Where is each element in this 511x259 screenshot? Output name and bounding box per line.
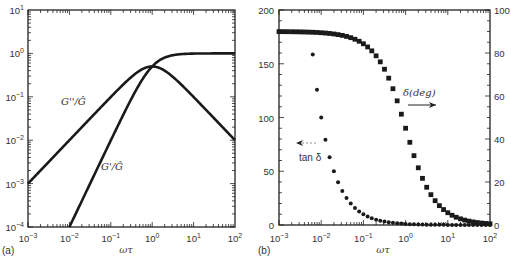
curve-storage-modulus — [69, 53, 235, 227]
tan-delta-point — [425, 223, 429, 227]
delta-point — [420, 176, 425, 181]
panel-a-y-tick-labels: 10−410−310−210−1100101 — [5, 4, 24, 233]
delta-point — [466, 219, 471, 224]
delta-point — [412, 153, 417, 158]
tan-delta-point — [442, 223, 446, 227]
delta-point — [353, 37, 358, 42]
tan-delta-point — [349, 202, 353, 206]
tan-delta-point — [391, 221, 395, 225]
tick-label: 10−2 — [5, 134, 24, 146]
delta-label: δ(deg) — [403, 87, 436, 98]
delta-point — [378, 59, 383, 64]
tan-delta-point — [332, 169, 336, 173]
panel-a-x-tick-labels: 10−310−210−1100101102 — [19, 232, 243, 244]
delta-point — [433, 198, 438, 203]
panel-b-y-tick-labels: 050100150200020406080100 — [258, 5, 510, 231]
panel-b-x-axis-title: ωτ — [376, 244, 390, 255]
right-tick-label: 0 — [494, 220, 499, 231]
tan-delta-point — [467, 223, 471, 227]
panel-b-chart: 10−310−210−1100101102 050100150200020406… — [258, 5, 510, 256]
panel-b-ticks — [279, 10, 490, 225]
panel-a-tag: (a) — [2, 245, 14, 256]
left-tick-label: 100 — [258, 113, 274, 124]
tan-delta-point — [408, 222, 412, 226]
tan-delta-point — [412, 222, 416, 226]
tan-delta-point — [450, 223, 454, 227]
figure: 10−310−210−1100101102 10−410−310−210−110… — [0, 0, 511, 259]
tan-delta-point — [433, 223, 437, 227]
delta-point — [374, 53, 379, 58]
tick-label: 101 — [441, 232, 456, 244]
delta-point — [281, 29, 286, 34]
panel-b-points — [277, 29, 493, 227]
delta-point — [429, 192, 434, 197]
right-tick-label: 60 — [494, 91, 505, 102]
tan-delta-point — [370, 216, 374, 220]
delta-point — [475, 220, 480, 225]
delta-point — [382, 67, 387, 72]
tan-delta-point — [437, 223, 441, 227]
tick-label: 10−2 — [312, 232, 331, 244]
delta-point — [306, 30, 311, 35]
tan-delta-point — [336, 180, 340, 184]
delta-point — [483, 221, 488, 226]
panel-b-tag: (b) — [258, 245, 270, 256]
tan-delta-point — [463, 223, 467, 227]
tan-delta-point — [420, 223, 424, 227]
delta-point — [399, 112, 404, 117]
delta-point — [344, 34, 349, 39]
delta-point — [285, 29, 290, 34]
delta-annotation: δ(deg) — [403, 87, 436, 108]
delta-point — [437, 203, 442, 208]
delta-point — [441, 207, 446, 212]
delta-point — [332, 32, 337, 37]
tan-delta-point — [374, 218, 378, 222]
curve-loss-modulus — [28, 66, 235, 183]
tan-delta-point — [446, 223, 450, 227]
tick-label: 102 — [483, 232, 498, 244]
tan-delta-point — [340, 189, 344, 193]
panel-a-chart: 10−310−210−1100101102 10−410−310−210−110… — [2, 4, 242, 256]
tick-label: 10−1 — [5, 91, 24, 103]
tan-delta-point — [382, 220, 386, 224]
delta-point — [471, 220, 476, 225]
delta-point — [365, 45, 370, 50]
delta-point — [488, 221, 493, 226]
tan-delta-point — [315, 88, 319, 92]
delta-point — [315, 30, 320, 35]
tick-label: 101 — [186, 232, 201, 244]
delta-point — [310, 30, 315, 35]
right-tick-label: 100 — [494, 5, 510, 16]
tan-delta-point — [378, 219, 382, 223]
tan-delta-point — [459, 223, 463, 227]
delta-point — [395, 98, 400, 103]
tick-label: 10−2 — [60, 232, 79, 244]
tick-label: 10−3 — [19, 232, 38, 244]
tan-delta-point — [311, 53, 315, 57]
tick-label: 10−1 — [354, 232, 373, 244]
tick-label: 100 — [10, 47, 25, 59]
delta-point — [361, 41, 366, 46]
tan-delta-annotation: tan δ — [296, 140, 322, 163]
delta-point — [458, 216, 463, 221]
right-tick-label: 20 — [494, 177, 505, 188]
tick-label: 10−1 — [102, 232, 121, 244]
left-tick-label: 200 — [258, 5, 274, 16]
delta-point — [445, 210, 450, 215]
delta-point — [424, 185, 429, 190]
delta-point — [277, 29, 282, 34]
delta-point — [289, 29, 294, 34]
delta-point — [357, 39, 362, 44]
panel-a-x-axis-title: ωτ — [119, 244, 133, 255]
left-tick-label: 50 — [263, 166, 274, 177]
tick-label: 10−3 — [5, 178, 24, 190]
delta-point — [323, 31, 328, 36]
tan-delta-point — [345, 196, 349, 200]
delta-point — [369, 48, 374, 53]
delta-point — [450, 213, 455, 218]
panel-a-curves — [28, 53, 235, 227]
delta-point — [416, 165, 421, 170]
left-tick-label: 0 — [269, 220, 274, 231]
tan-delta-point — [387, 220, 391, 224]
delta-point — [407, 140, 412, 145]
